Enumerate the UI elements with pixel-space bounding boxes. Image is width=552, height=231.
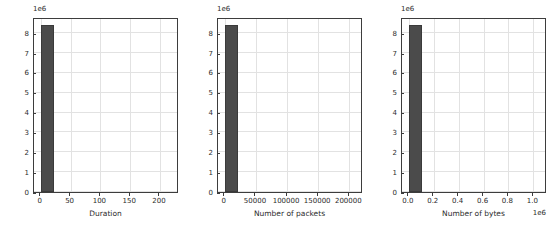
y-axis-tick-label: 6 [393,70,401,77]
y-axis-tick-mark [217,54,220,55]
gridline-horizontal [402,112,545,113]
y-axis-tick-label: 2 [393,150,401,157]
x-axis-tick-mark [69,193,70,196]
y-axis-tick-mark [401,34,404,35]
gridline-horizontal [34,131,177,132]
gridline-horizontal [34,32,177,33]
gridline-vertical [434,19,435,192]
y-axis-tick-label: 0 [393,190,401,197]
x-axis-tick-mark [532,193,533,196]
gridline-horizontal [402,151,545,152]
y-axis-tick-mark [401,193,404,194]
gridline-horizontal [218,52,361,53]
x-axis-tick-label: 0.8 [502,198,513,205]
gridline-horizontal [402,72,545,73]
x-axis-tick-mark [129,193,130,196]
gridline-horizontal [34,92,177,93]
x-axis-tick-mark [317,193,318,196]
x-axis-offset-text-2: 1e6 [401,210,546,217]
x-axis-label-1: Number of packets [217,210,362,218]
gridline-horizontal [402,52,545,53]
gridline-vertical [287,19,288,192]
x-axis-tick-mark [223,193,224,196]
x-axis-tick-mark [158,193,159,196]
gridline-horizontal [34,151,177,152]
x-axis-tick-label: 50000 [244,198,266,205]
y-axis-tick-mark [217,193,220,194]
gridline-vertical [318,19,319,192]
x-axis-tick-mark [482,193,483,196]
x-axis-tick-label: 0 [222,198,226,205]
y-axis-offset-text-2: 1e6 [401,6,414,13]
y-axis-tick-label: 1 [25,170,33,177]
x-axis-tick-mark [39,193,40,196]
x-axis-tick-label: 100 [93,198,106,205]
y-axis-tick-mark [217,153,220,154]
x-axis-tick-mark [457,193,458,196]
subplot-duration: 1e6 012345678 050100150200 Duration [0,0,184,231]
x-axis-tick-mark [507,193,508,196]
plot-area-1 [217,18,362,193]
y-axis-tick-label: 0 [209,190,217,197]
y-axis-tick-label: 5 [25,90,33,97]
gridline-horizontal [402,131,545,132]
y-axis-tick-label: 8 [209,31,217,38]
y-axis-tick-label: 1 [393,170,401,177]
gridline-horizontal [218,32,361,33]
histogram-bar [41,25,54,192]
x-axis-tick-label: 150 [122,198,135,205]
y-axis-tick-label: 0 [25,190,33,197]
subplot-number-of-bytes: 1e6 012345678 0.00.20.40.60.81.0 Number … [368,0,552,231]
y-axis-tick-label: 7 [25,51,33,58]
y-axis-tick-label: 3 [393,130,401,137]
y-axis-tick-mark [33,193,36,194]
y-axis-offset-text-0: 1e6 [33,6,46,13]
y-axis-tick-mark [33,54,36,55]
x-axis-tick-label: 0 [38,198,42,205]
gridline-horizontal [218,92,361,93]
x-axis-label-0: Duration [33,210,178,218]
gridline-horizontal [218,171,361,172]
y-axis-tick-mark [401,153,404,154]
y-axis-tick-label: 4 [209,110,217,117]
x-axis-tick-mark [99,193,100,196]
y-axis-tick-label: 6 [209,70,217,77]
gridline-horizontal [218,131,361,132]
gridline-vertical [484,19,485,192]
gridline-horizontal [218,151,361,152]
gridline-vertical [130,19,131,192]
gridline-vertical [533,19,534,192]
x-axis-tick-label: 1.0 [527,198,538,205]
y-axis-tick-label: 3 [209,130,217,137]
y-axis-tick-mark [401,54,404,55]
gridline-vertical [349,19,350,192]
gridline-horizontal [218,72,361,73]
y-axis-tick-mark [217,73,220,74]
gridline-vertical [508,19,509,192]
x-axis-tick-label: 100000 [273,198,300,205]
x-axis-tick-label: 200 [152,198,165,205]
gridline-horizontal [34,191,177,192]
x-axis-tick-mark [348,193,349,196]
x-axis-tick-label: 200000 [335,198,362,205]
y-axis-tick-label: 8 [25,31,33,38]
y-axis-tick-mark [33,113,36,114]
y-axis-tick-mark [33,133,36,134]
gridline-horizontal [402,191,545,192]
gridline-vertical [459,19,460,192]
gridline-horizontal [34,171,177,172]
x-axis-tick-mark [407,193,408,196]
histogram-figure: 1e6 012345678 050100150200 Duration 1e6 … [0,0,552,231]
gridline-horizontal [34,72,177,73]
y-axis-tick-label: 6 [25,70,33,77]
y-axis-tick-mark [401,113,404,114]
y-axis-tick-mark [217,93,220,94]
y-axis-tick-label: 2 [209,150,217,157]
y-axis-tick-label: 3 [25,130,33,137]
y-axis-tick-mark [33,93,36,94]
y-axis-tick-mark [33,173,36,174]
x-axis-tick-label: 0.2 [427,198,438,205]
plot-area-2 [401,18,546,193]
gridline-vertical [71,19,72,192]
gridline-horizontal [402,171,545,172]
